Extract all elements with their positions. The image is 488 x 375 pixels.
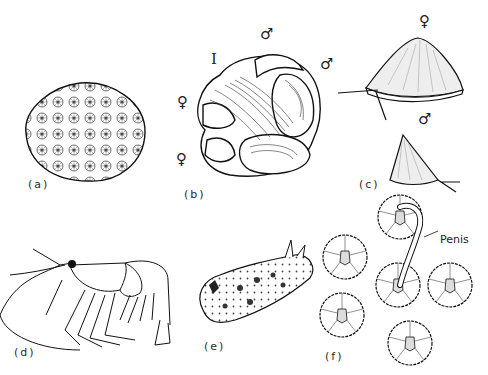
penis-callout-line — [424, 231, 438, 237]
penis-callout-label: Penis — [440, 233, 469, 246]
limpets-illustration — [338, 30, 483, 185]
male-symbol-b-left: ♂ — [260, 27, 273, 42]
panel-f-label: (f) — [325, 350, 343, 363]
shrimp-eye — [68, 260, 76, 268]
barnacle-lower-left — [320, 293, 364, 337]
panel-c-limpets — [338, 30, 483, 185]
female-symbol-b-bottom: ♀ — [176, 152, 187, 167]
panel-b-limpet-stack — [185, 45, 325, 185]
roman-numeral-one: I — [211, 52, 217, 67]
male-symbol-c: ♂ — [418, 112, 431, 127]
panel-d-label: (d) — [14, 346, 36, 359]
limpet-stack-illustration — [185, 45, 325, 185]
panel-a-coral — [18, 78, 148, 188]
shrimp-illustration — [0, 235, 180, 355]
female-symbol-b-top: ♀ — [177, 95, 188, 110]
panel-c-label: (c) — [359, 178, 380, 191]
barnacles-illustration — [320, 195, 485, 370]
panel-f-barnacles — [320, 195, 485, 370]
barnacle-left — [323, 235, 367, 279]
male-symbol-b-right: ♂ — [320, 57, 333, 72]
barnacle-bottom — [388, 321, 432, 365]
barnacle-right — [428, 263, 472, 307]
panel-e-sea-slug — [195, 240, 315, 330]
panel-a-label: (a) — [28, 178, 49, 191]
female-symbol-c: ♀ — [419, 14, 430, 29]
panel-d-shrimp — [0, 235, 180, 355]
panel-e-label: (e) — [204, 340, 225, 353]
panel-b-label: (b) — [184, 188, 206, 201]
coral-illustration — [18, 78, 148, 188]
sea-slug-illustration — [195, 240, 315, 330]
